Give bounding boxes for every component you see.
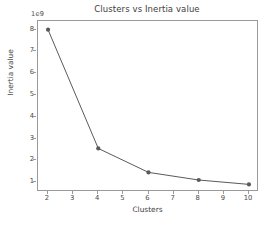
y-tick-label: 5 [12,90,34,98]
x-tick-mark [72,191,73,194]
data-point [46,28,50,32]
series-line [48,30,249,185]
y-axis-offset-label: 1e9 [31,10,44,18]
x-tick-mark [47,191,48,194]
data-point [146,170,150,174]
chart-title: Clusters vs Inertia value [36,4,258,14]
x-tick-label: 4 [85,194,109,202]
y-tick-mark [33,72,36,73]
x-tick-mark [223,191,224,194]
data-series-group [38,21,259,192]
y-tick-mark [33,50,36,51]
y-tick-mark [33,181,36,182]
x-tick-label: 2 [35,194,59,202]
x-tick-label: 9 [211,194,235,202]
x-tick-label: 3 [60,194,84,202]
series-markers [46,28,251,187]
y-tick-mark [33,29,36,30]
y-tick-label: 2 [12,155,34,163]
y-tick-mark [33,138,36,139]
x-tick-label: 7 [161,194,185,202]
x-tick-mark [148,191,149,194]
y-tick-mark [33,116,36,117]
y-axis-label: Inertia value [6,33,15,113]
data-point [247,182,251,186]
x-tick-label: 5 [110,194,134,202]
y-tick-mark [33,94,36,95]
y-tick-label: 3 [12,134,34,142]
x-tick-mark [122,191,123,194]
data-point [96,146,100,150]
y-tick-label: 8 [12,25,34,33]
x-axis-label: Clusters [37,205,258,214]
x-tick-mark [248,191,249,194]
y-tick-label: 1 [12,177,34,185]
chart-figure: Clusters vs Inertia value 1e9 12345678 2… [0,0,272,226]
y-tick-label: 4 [12,112,34,120]
plot-area [37,20,258,191]
x-tick-mark [198,191,199,194]
y-tick-mark [33,159,36,160]
x-tick-label: 10 [236,194,260,202]
y-tick-label: 7 [12,46,34,54]
x-tick-mark [173,191,174,194]
x-tick-label: 6 [136,194,160,202]
x-tick-label: 8 [186,194,210,202]
y-tick-label: 6 [12,68,34,76]
data-point [197,178,201,182]
x-tick-mark [97,191,98,194]
